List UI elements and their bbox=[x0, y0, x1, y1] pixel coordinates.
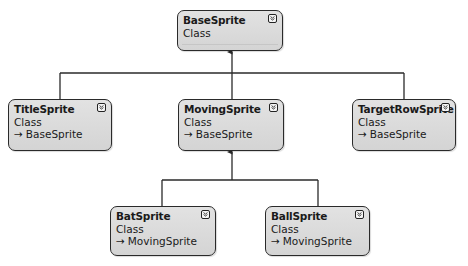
class-kind: Class bbox=[116, 223, 210, 235]
class-name: BaseSprite bbox=[183, 14, 277, 27]
base-class-name: BaseSprite bbox=[26, 128, 83, 140]
class-name: TitleSprite bbox=[14, 103, 106, 116]
base-class-name: BaseSprite bbox=[370, 128, 427, 140]
connector-base-tree bbox=[60, 52, 404, 99]
base-class-ref: →MovingSprite bbox=[116, 235, 210, 247]
class-kind: Class bbox=[184, 116, 278, 128]
class-kind: Class bbox=[271, 223, 364, 235]
collapse-chevron-icon[interactable] bbox=[355, 210, 364, 219]
class-box-targetrowsprite[interactable]: TargetRowSprite Class →BaseSprite bbox=[352, 99, 456, 151]
class-diagram-canvas: BaseSprite Class TitleSprite Class →Base… bbox=[0, 0, 468, 266]
inherits-arrow-icon: → bbox=[14, 128, 23, 140]
inherits-arrow-icon: → bbox=[271, 235, 280, 247]
class-name: BatSprite bbox=[116, 210, 210, 223]
class-name: TargetRowSprite bbox=[358, 103, 450, 116]
class-box-batsprite[interactable]: BatSprite Class →MovingSprite bbox=[110, 206, 216, 256]
class-box-basesprite[interactable]: BaseSprite Class bbox=[177, 10, 283, 51]
base-class-ref: →MovingSprite bbox=[271, 235, 364, 247]
base-class-ref: →BaseSprite bbox=[184, 128, 278, 140]
collapse-chevron-icon[interactable] bbox=[269, 103, 278, 112]
collapse-chevron-icon[interactable] bbox=[201, 210, 210, 219]
base-class-name: MovingSprite bbox=[128, 235, 197, 247]
compartment-divider bbox=[182, 44, 278, 45]
base-class-name: MovingSprite bbox=[283, 235, 352, 247]
base-class-name: BaseSprite bbox=[196, 128, 253, 140]
class-box-ballsprite[interactable]: BallSprite Class →MovingSprite bbox=[265, 206, 370, 256]
collapse-chevron-icon[interactable] bbox=[268, 14, 277, 23]
inherits-arrow-icon: → bbox=[358, 128, 367, 140]
class-kind: Class bbox=[358, 116, 450, 128]
class-name: BallSprite bbox=[271, 210, 364, 223]
class-box-titlesprite[interactable]: TitleSprite Class →BaseSprite bbox=[8, 99, 112, 151]
inherits-arrow-icon: → bbox=[184, 128, 193, 140]
connector-moving-tree bbox=[162, 152, 318, 206]
collapse-chevron-icon[interactable] bbox=[441, 103, 450, 112]
inherits-arrow-icon: → bbox=[116, 235, 125, 247]
collapse-chevron-icon[interactable] bbox=[97, 103, 106, 112]
class-kind: Class bbox=[183, 27, 277, 39]
class-name: MovingSprite bbox=[184, 103, 278, 116]
class-box-movingsprite[interactable]: MovingSprite Class →BaseSprite bbox=[178, 99, 284, 151]
base-class-ref: →BaseSprite bbox=[14, 128, 106, 140]
base-class-ref: →BaseSprite bbox=[358, 128, 450, 140]
class-kind: Class bbox=[14, 116, 106, 128]
